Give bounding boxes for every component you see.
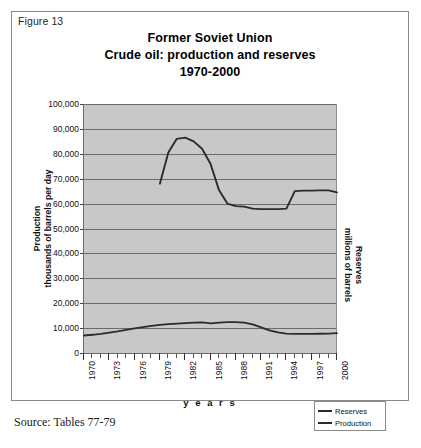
legend-swatch-production (318, 422, 332, 424)
y-axis-tick-label: 80,000 (53, 149, 79, 159)
x-axis-tick-major (285, 353, 286, 360)
legend-label-reserves: Reserves (335, 407, 367, 416)
x-axis-tick-minor (150, 353, 151, 358)
x-axis-tick-minor (117, 353, 118, 358)
x-axis-ticks (83, 353, 337, 360)
x-axis-tick-minor (142, 353, 143, 358)
x-axis-tick-minor (226, 353, 227, 358)
x-axis-tick-minor (201, 353, 202, 358)
y-axis-tick-label: 40,000 (53, 248, 79, 258)
x-axis-tick-minor (252, 353, 253, 358)
y-axis-tick-label: 0 (74, 348, 79, 358)
x-axis-tick-minor (218, 353, 219, 358)
x-axis-tick-label: 1979 (163, 361, 173, 380)
x-axis-tick-minor (125, 353, 126, 358)
y-axis-tick-labels: 100,00090,00080,00070,00060,00050,00040,… (30, 104, 79, 353)
plot-area (83, 104, 337, 353)
figure-frame: Figure 13 Former Soviet Union Crude oil:… (11, 11, 409, 401)
chart-title-line-3: 1970-2000 (12, 64, 408, 81)
chart-legend: Reserves Production (314, 401, 386, 431)
x-axis-tick-label: 1997 (315, 361, 325, 380)
x-axis-tick-label: 1985 (214, 361, 224, 380)
chart-title: Former Soviet Union Crude oil: productio… (12, 30, 408, 81)
x-axis-tick-minor (328, 353, 329, 358)
x-axis-tick-minor (319, 353, 320, 358)
x-axis-tick-minor (243, 353, 244, 358)
x-axis-tick-label: 1988 (239, 361, 249, 380)
y-axis-tick-label: 90,000 (53, 124, 79, 134)
x-axis-tick-minor (91, 353, 92, 358)
secondary-y-axis-title-line-1: Reserves (353, 190, 364, 340)
x-axis-tick-labels: 1970197319761979198219851988199119941997… (83, 361, 337, 395)
x-axis-tick-major (108, 353, 109, 360)
legend-item-production: Production (318, 417, 385, 429)
x-axis-tick-label: 1976 (138, 361, 148, 380)
x-axis-tick-minor (193, 353, 194, 358)
y-axis-tick-label: 70,000 (53, 174, 79, 184)
x-axis-tick-label: 1991 (264, 361, 274, 380)
x-axis-tick-label: 1973 (112, 361, 122, 380)
legend-item-reserves: Reserves (318, 405, 385, 417)
y-axis-tick-label: 50,000 (53, 224, 79, 234)
chart-title-line-1: Former Soviet Union (12, 30, 408, 47)
x-axis-tick-major (159, 353, 160, 360)
x-axis-title: y e a r s (83, 397, 337, 408)
x-axis-tick-major (336, 353, 337, 360)
y-axis-tick-label: 20,000 (53, 298, 79, 308)
x-axis-tick-minor (302, 353, 303, 358)
y-axis-tick-label: 60,000 (53, 199, 79, 209)
y-axis-tick-label: 30,000 (53, 273, 79, 283)
secondary-y-axis-title-line-2: millions of barrels (342, 190, 353, 340)
x-axis-tick-label: 2000 (340, 361, 350, 380)
x-axis-tick-major (235, 353, 236, 360)
y-axis-tick-label: 10,000 (53, 323, 79, 333)
x-axis-tick-major (210, 353, 211, 360)
chart-title-line-2: Crude oil: production and reserves (12, 47, 408, 64)
x-axis-tick-major (134, 353, 135, 360)
y-axis-tick-label: 100,000 (48, 99, 79, 109)
legend-swatch-reserves (318, 410, 332, 412)
x-axis-tick-label: 1994 (289, 361, 299, 380)
secondary-y-axis-title: Reserves millions of barrels (338, 190, 364, 340)
x-axis-tick-label: 1982 (188, 361, 198, 380)
x-axis-tick-major (311, 353, 312, 360)
gridlines (84, 104, 337, 354)
series-lines (84, 104, 337, 353)
x-axis-tick-minor (269, 353, 270, 358)
x-axis-tick-label: 1970 (87, 361, 97, 380)
x-axis-tick-minor (100, 353, 101, 358)
x-axis-tick-minor (167, 353, 168, 358)
x-axis-tick-minor (294, 353, 295, 358)
series-line-reserves (160, 138, 337, 209)
legend-label-production: Production (335, 419, 371, 428)
source-note: Source: Tables 77-79 (14, 415, 116, 430)
x-axis-tick-minor (176, 353, 177, 358)
figure-label: Figure 13 (18, 15, 63, 27)
x-axis-tick-major (260, 353, 261, 360)
x-axis-tick-major (184, 353, 185, 360)
x-axis-tick-major (83, 353, 84, 360)
x-axis-tick-minor (277, 353, 278, 358)
